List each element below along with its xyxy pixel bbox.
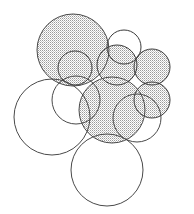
figure-root xyxy=(0,0,194,214)
shaded-union-region xyxy=(0,0,194,214)
overlapping-circles-diagram xyxy=(0,0,194,214)
